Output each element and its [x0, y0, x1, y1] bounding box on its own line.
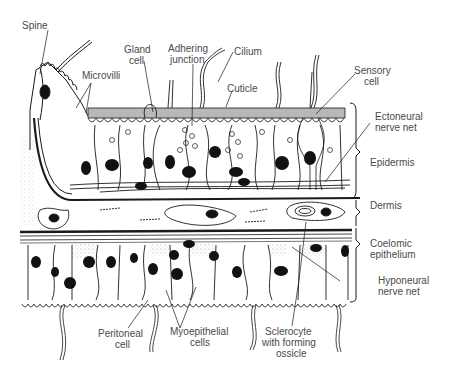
- label-myoepithelial-2: cells: [190, 337, 210, 348]
- label-sclerocyte-1: Sclerocyte: [265, 326, 312, 337]
- label-gland-cell-2: cell: [129, 55, 144, 66]
- label-ectoneural-2: nerve net: [375, 122, 417, 133]
- label-myoepithelial-1: Myoepithelial: [170, 326, 228, 337]
- gland-granules: [110, 128, 333, 159]
- label-sensory-cell-2: cell: [364, 76, 379, 87]
- label-peritoneal-2: cell: [115, 339, 130, 350]
- label-spine: Spine: [22, 20, 48, 31]
- label-coelomic-1: Coelomic: [370, 238, 412, 249]
- layer-brackets: [350, 103, 360, 302]
- label-hyponeural-1: Hyponeural: [378, 275, 429, 286]
- label-hyponeural-2: nerve net: [378, 286, 420, 297]
- label-coelomic-2: epithelium: [370, 249, 416, 260]
- label-epidermis: Epidermis: [370, 157, 414, 168]
- label-ectoneural-1: Ectoneural: [375, 111, 423, 122]
- label-dermis: Dermis: [370, 200, 402, 211]
- label-microvilli: Microvilli: [82, 70, 120, 81]
- label-sclerocyte-2: with forming: [262, 337, 316, 348]
- label-adhering-junction-2: junction: [170, 54, 204, 65]
- label-sensory-cell-1: Sensory: [354, 65, 391, 76]
- body-wall-diagram: [0, 0, 450, 375]
- cuticle-layer: [88, 108, 345, 122]
- label-gland-cell-1: Gland: [124, 44, 151, 55]
- dermis-layer: [38, 202, 345, 229]
- label-peritoneal-1: Peritoneal: [98, 328, 143, 339]
- label-cilium: Cilium: [234, 46, 262, 57]
- label-adhering-junction-1: Adhering: [168, 43, 208, 54]
- label-cuticle: Cuticle: [227, 83, 258, 94]
- label-sclerocyte-3: ossicle: [276, 348, 307, 359]
